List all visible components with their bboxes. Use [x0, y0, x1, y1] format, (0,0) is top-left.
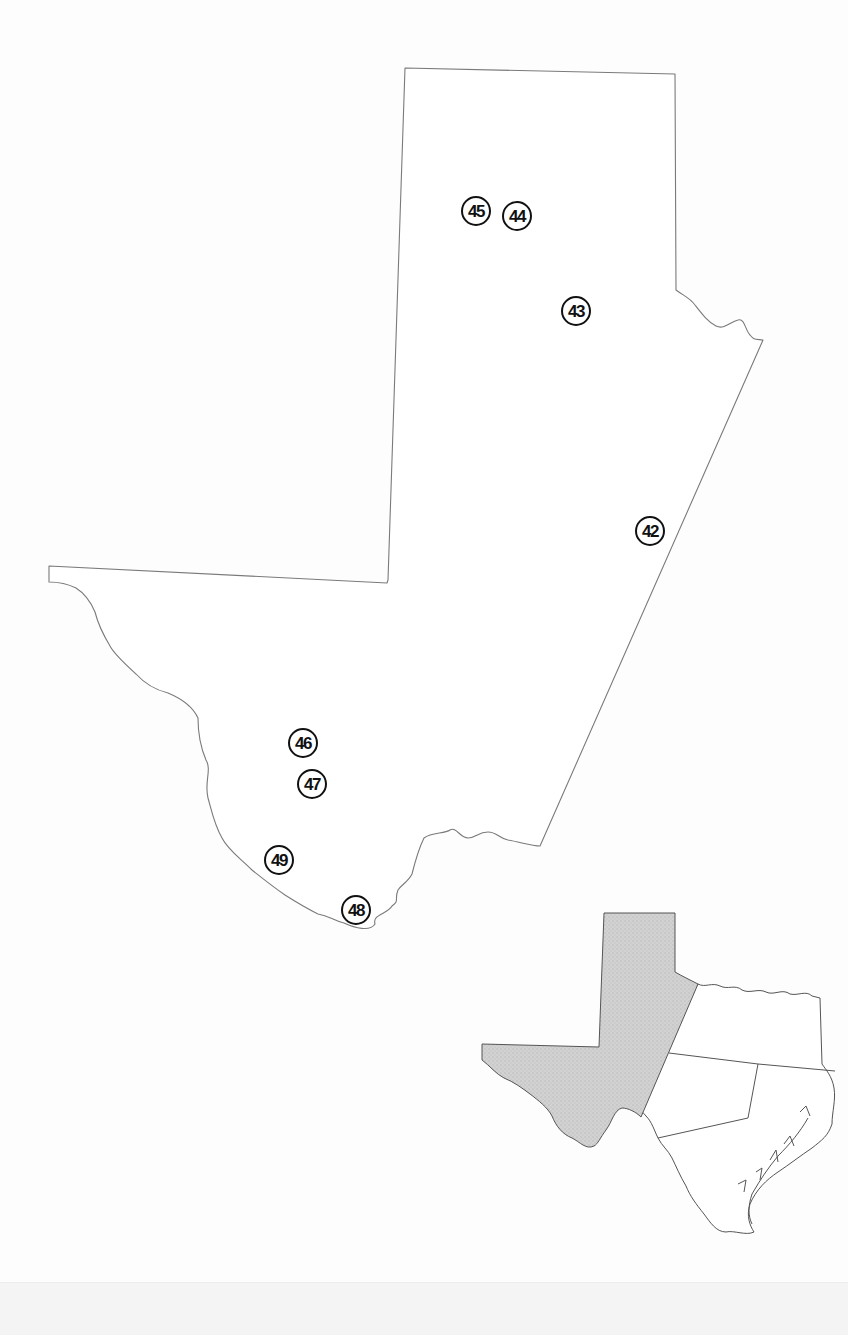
site-marker-48[interactable]: 48: [342, 896, 370, 924]
svg-text:49: 49: [271, 851, 288, 870]
svg-text:45: 45: [468, 202, 485, 221]
svg-text:46: 46: [295, 734, 312, 753]
texas-locator-inset: [482, 913, 835, 1233]
site-marker-44[interactable]: 44: [503, 202, 531, 230]
svg-text:42: 42: [642, 522, 659, 541]
site-marker-42[interactable]: 42: [636, 517, 664, 545]
site-marker-46[interactable]: 46: [289, 729, 317, 757]
site-marker-49[interactable]: 49: [265, 846, 293, 874]
site-marker-43[interactable]: 43: [562, 297, 590, 325]
svg-text:47: 47: [304, 775, 321, 794]
svg-text:48: 48: [348, 901, 365, 920]
site-marker-47[interactable]: 47: [298, 770, 326, 798]
site-marker-45[interactable]: 45: [462, 197, 490, 225]
svg-text:44: 44: [509, 207, 527, 226]
region-outline: [49, 68, 763, 929]
svg-text:43: 43: [568, 302, 585, 321]
